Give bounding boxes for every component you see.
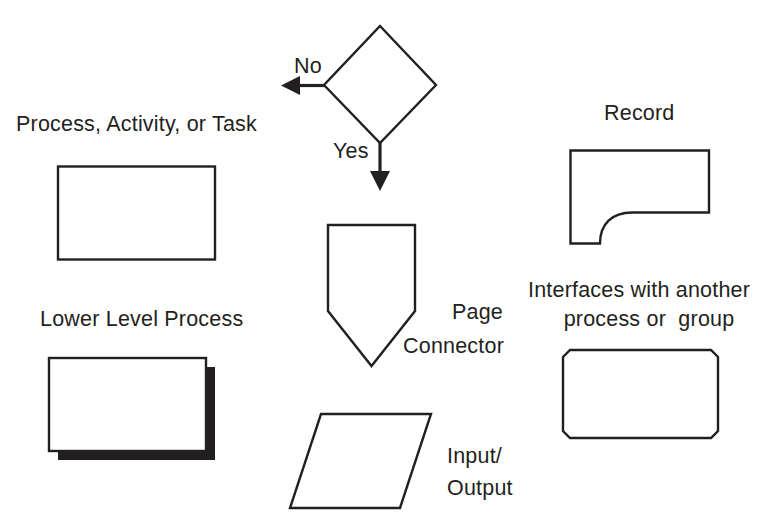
lower-level-process-label: Lower Level Process <box>40 307 243 332</box>
interface-label-line2: process or group <box>528 307 770 332</box>
decision-diamond-shape <box>324 26 436 143</box>
input-output-parallelogram-shape <box>290 414 431 508</box>
page-connector-label-line2: Connector <box>403 334 504 359</box>
decision-yes-label: Yes <box>333 139 369 164</box>
record-label: Record <box>604 101 675 126</box>
process-rectangle-shape <box>58 167 215 260</box>
input-output-label-line2: Output <box>447 476 513 501</box>
flowchart-legend-canvas: Process, Activity, or Task Lower Level P… <box>0 0 774 523</box>
page-connector-label-line1: Page <box>452 300 503 325</box>
lower-level-process-rectangle-shape <box>49 358 206 451</box>
shape-layer <box>0 0 774 523</box>
decision-no-label: No <box>294 54 322 79</box>
process-label: Process, Activity, or Task <box>16 112 257 137</box>
page-connector-pentagon-shape <box>328 225 415 366</box>
record-shape <box>571 151 710 244</box>
interface-chamfered-rectangle-shape <box>563 350 718 438</box>
interface-label-line1: Interfaces with another <box>528 278 750 303</box>
input-output-label-line1: Input/ <box>447 444 502 469</box>
decision-yes-arrowhead-icon <box>370 171 390 191</box>
